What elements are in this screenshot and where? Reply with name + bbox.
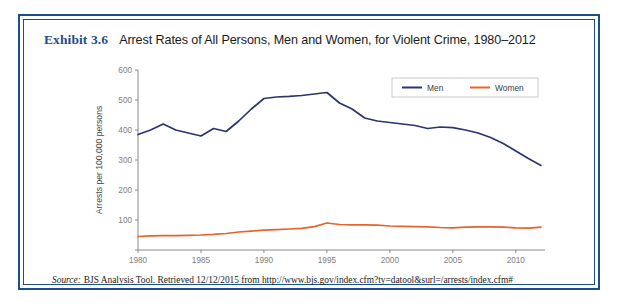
x-axis-tick-label: 2000 [381, 256, 400, 265]
y-axis-tick-label: 500 [118, 96, 132, 105]
y-axis-tick-label: 200 [118, 186, 132, 195]
source-note: Source:BJS Analysis Tool. Retrieved 12/1… [52, 275, 574, 285]
y-axis-tick-label: 100 [118, 216, 132, 225]
x-axis-tick-label: 2005 [444, 256, 463, 265]
x-axis-tick-label: 1990 [255, 256, 274, 265]
x-axis-tick-label: 2010 [507, 256, 526, 265]
source-text: BJS Analysis Tool. Retrieved 12/12/2015 … [84, 275, 513, 285]
series-line-men [138, 93, 541, 166]
x-axis-tick-label: 1995 [318, 256, 337, 265]
y-axis-tick-label: 600 [118, 66, 132, 75]
x-axis-tick-label: 1985 [192, 256, 211, 265]
y-axis-tick-label: 300 [118, 156, 132, 165]
y-axis-title: Arrests per 100,000 persons [94, 106, 104, 214]
source-label: Source: [52, 275, 81, 285]
legend-label-men: Men [427, 83, 444, 93]
line-chart: 1002003004005006001980198519901995200020… [20, 16, 602, 292]
exhibit-frame: Exhibit 3.6Arrest Rates of All Persons, … [18, 14, 600, 290]
exhibit-page: Exhibit 3.6Arrest Rates of All Persons, … [0, 0, 621, 308]
chart-container: 1002003004005006001980198519901995200020… [20, 16, 602, 292]
legend-label-women: Women [495, 83, 524, 93]
x-axis-tick-label: 1980 [129, 256, 148, 265]
series-line-women [138, 223, 541, 237]
y-axis-tick-label: 400 [118, 126, 132, 135]
